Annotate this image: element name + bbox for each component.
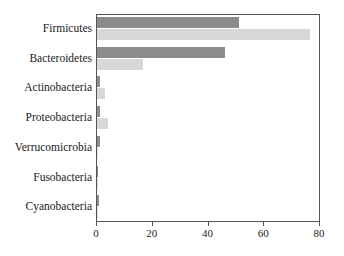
bar [97, 17, 239, 28]
bar [97, 88, 105, 99]
y-axis-label: Cyanobacteria [0, 200, 92, 212]
bar-group [97, 75, 319, 105]
x-axis-tick-mark [152, 222, 153, 226]
bar-group [97, 105, 319, 135]
y-axis-label: Proteobacteria [0, 111, 92, 123]
bar [97, 118, 108, 129]
x-axis-tick-label: 80 [314, 227, 325, 239]
bar-group [97, 165, 319, 195]
bar [97, 148, 98, 159]
x-axis-tick-label: 0 [93, 227, 99, 239]
bar [97, 29, 310, 40]
bar [97, 47, 225, 58]
bar [97, 106, 100, 117]
y-axis-label: Actinobacteria [0, 81, 92, 93]
x-axis-tick-mark [263, 222, 264, 226]
bar [97, 136, 100, 147]
x-axis-tick-label: 20 [146, 227, 157, 239]
x-axis-tick-mark [319, 222, 320, 226]
bar-chart-figure: FirmicutesBacteroidetesActinobacteriaPro… [0, 0, 344, 256]
bar [97, 178, 98, 189]
y-axis-label: Fusobacteria [0, 171, 92, 183]
x-axis-tick-label: 40 [202, 227, 213, 239]
bar [97, 195, 99, 206]
x-axis: 020406080 [96, 222, 320, 246]
bar [97, 59, 143, 70]
x-axis-tick-mark [208, 222, 209, 226]
bar-group [97, 16, 319, 46]
y-axis-label: Bacteroidetes [0, 52, 92, 64]
plot-area [96, 14, 320, 222]
bar [97, 166, 98, 177]
y-axis-label: Firmicutes [0, 22, 92, 34]
x-axis-tick-mark [96, 222, 97, 226]
bar-group [97, 194, 319, 224]
x-axis-tick-label: 60 [258, 227, 269, 239]
y-axis-label: Verrucomicrobia [0, 141, 92, 153]
bar-group [97, 135, 319, 165]
bar [97, 76, 100, 87]
bar [97, 207, 98, 218]
bar-group [97, 46, 319, 76]
